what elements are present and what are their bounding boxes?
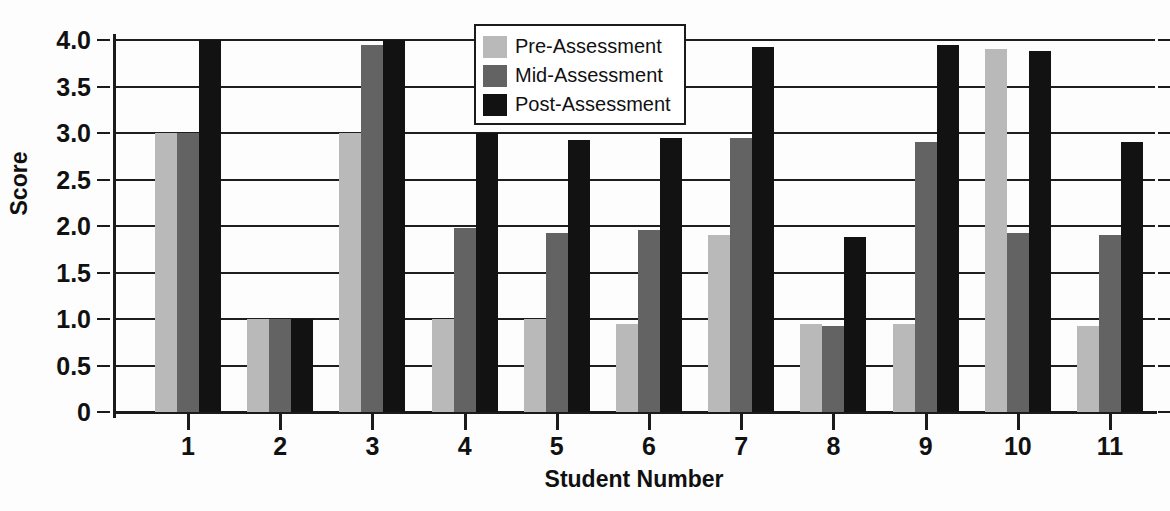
bar-mid (1007, 233, 1029, 412)
bar-post (291, 319, 313, 412)
bar-group (247, 40, 313, 412)
y-tick-label: 0 (27, 398, 91, 427)
x-tick-mark (556, 414, 559, 430)
bar-pre (616, 324, 638, 412)
bar-mid (546, 233, 568, 412)
bar-pre (800, 324, 822, 412)
bar-mid (177, 133, 199, 412)
bar-pre (708, 235, 730, 412)
bar-post (199, 40, 221, 412)
legend-label: Post-Assessment (515, 93, 671, 116)
legend-item: Post-Assessment (483, 90, 677, 119)
x-tick-mark (925, 414, 928, 430)
bar-post (937, 45, 959, 412)
y-tick-mark-right (1158, 411, 1170, 413)
x-tick-label: 2 (250, 432, 310, 461)
bar-post (752, 47, 774, 412)
bar-group (800, 40, 866, 412)
x-tick-label: 6 (619, 432, 679, 461)
y-tick-mark (97, 411, 110, 413)
x-tick-mark (648, 414, 651, 430)
y-tick-mark (97, 39, 110, 41)
bar-mid (822, 326, 844, 412)
y-tick-mark-right (1158, 272, 1170, 274)
x-tick-label: 11 (1080, 432, 1140, 461)
y-tick-label: 2.0 (27, 212, 91, 241)
y-tick-label: 0.5 (27, 351, 91, 380)
bar-mid (454, 228, 476, 412)
y-tick-label: 1.5 (27, 258, 91, 287)
legend-label: Mid-Assessment (515, 64, 663, 87)
y-tick-mark-right (1158, 132, 1170, 134)
y-tick-mark-right (1158, 225, 1170, 227)
bar-pre (524, 319, 546, 412)
bar-mid (730, 138, 752, 412)
x-tick-label: 1 (158, 432, 218, 461)
bar-mid (915, 142, 937, 412)
y-tick-label: 3.0 (27, 119, 91, 148)
bar-post (568, 140, 590, 412)
bar-pre (985, 49, 1007, 412)
legend-item: Mid-Assessment (483, 61, 677, 90)
bar-group (708, 40, 774, 412)
x-axis-title: Student Number (113, 466, 1155, 493)
y-tick-label: 3.5 (27, 72, 91, 101)
y-tick-label: 1.0 (27, 305, 91, 334)
y-tick-mark-right (1158, 179, 1170, 181)
bar-pre (155, 133, 177, 412)
x-tick-label: 7 (711, 432, 771, 461)
bar-post (383, 40, 405, 412)
chart-figure: Score Student Number 00.51.01.52.02.53.0… (0, 0, 1170, 511)
x-tick-label: 8 (803, 432, 863, 461)
y-tick-mark (97, 318, 110, 320)
x-tick-label: 5 (527, 432, 587, 461)
y-tick-mark (97, 132, 110, 134)
x-tick-mark (832, 414, 835, 430)
y-tick-mark (97, 272, 110, 274)
bar-mid (269, 319, 291, 412)
legend-swatch (483, 36, 507, 58)
bar-pre (339, 133, 361, 412)
y-tick-mark (97, 365, 110, 367)
x-tick-mark (1109, 414, 1112, 430)
bar-post (844, 237, 866, 412)
bar-post (660, 138, 682, 412)
legend-swatch (483, 94, 507, 116)
x-tick-mark (187, 414, 190, 430)
x-tick-mark (464, 414, 467, 430)
y-tick-mark-right (1158, 39, 1170, 41)
bar-mid (1099, 235, 1121, 412)
y-tick-mark (97, 225, 110, 227)
x-tick-mark (740, 414, 743, 430)
bar-mid (361, 45, 383, 412)
x-tick-label: 9 (896, 432, 956, 461)
bar-pre (1077, 326, 1099, 412)
x-tick-label: 10 (988, 432, 1048, 461)
legend-label: Pre-Assessment (515, 35, 662, 58)
y-tick-label: 2.5 (27, 165, 91, 194)
y-tick-mark (97, 179, 110, 181)
x-tick-label: 3 (342, 432, 402, 461)
y-tick-mark (97, 86, 110, 88)
bar-post (1121, 142, 1143, 412)
bar-mid (638, 230, 660, 412)
chart-legend: Pre-AssessmentMid-AssessmentPost-Assessm… (474, 24, 686, 125)
bar-group (985, 40, 1051, 412)
x-tick-mark (1017, 414, 1020, 430)
bar-pre (432, 319, 454, 412)
x-tick-label: 4 (435, 432, 495, 461)
bar-pre (247, 319, 269, 412)
bar-group (893, 40, 959, 412)
x-tick-mark (279, 414, 282, 430)
bar-group (1077, 40, 1143, 412)
y-tick-label: 4.0 (27, 26, 91, 55)
bar-group (155, 40, 221, 412)
bar-post (476, 133, 498, 412)
y-tick-mark-right (1158, 318, 1170, 320)
y-tick-mark-right (1158, 365, 1170, 367)
x-tick-mark (371, 414, 374, 430)
y-tick-mark-right (1158, 86, 1170, 88)
bar-group (339, 40, 405, 412)
bar-pre (893, 324, 915, 412)
legend-swatch (483, 65, 507, 87)
